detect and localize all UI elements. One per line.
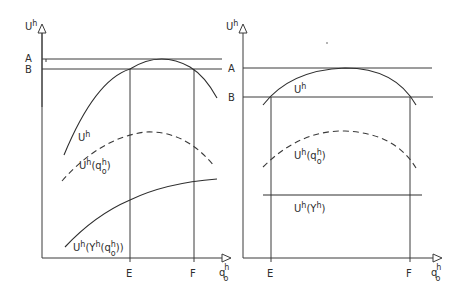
right-level-b-label: B [228, 92, 235, 103]
left-level-b-label: B [25, 64, 32, 75]
left-x-axis-label: qho [219, 263, 229, 283]
right-uh-qoh-curve [263, 131, 416, 168]
left-tick-e: E [126, 268, 132, 279]
right-uh-yh-label: Uh(Yh) [294, 201, 326, 214]
right-uh-qoh-label: Uh(qho) [294, 148, 326, 166]
right-level-a-label: A [228, 63, 235, 74]
left-level-a-label: A [25, 53, 32, 64]
left-uh-label: Uh [78, 130, 90, 143]
right-y-arrow-icon [239, 24, 247, 33]
diagram-canvas: Uh A B E F qho Uh Uh(qho) Uh(Yh(qho)) Uh… [0, 0, 470, 299]
right-tick-e: E [267, 268, 273, 279]
left-panel: Uh A B E F qho Uh Uh(qho) Uh(Yh(qho)) [25, 19, 231, 283]
left-tick-f: F [190, 268, 196, 279]
left-uh-qoh-label: Uh(qho) [79, 158, 111, 176]
right-x-axis-label: qho [431, 263, 441, 283]
speck-dot [326, 42, 328, 44]
right-tick-f: F [406, 268, 412, 279]
right-y-axis-label: Uh [226, 19, 238, 32]
right-x-arrow-icon [433, 254, 442, 262]
right-uh-label: Uh [294, 82, 306, 95]
left-y-arrow-icon [38, 24, 46, 33]
left-uh-yh-qoh-label: Uh(Yh(qho)) [73, 240, 124, 258]
left-x-arrow-icon [222, 254, 231, 262]
right-panel: Uh A B E F qho Uh Uh(qho) Uh(Yh) [226, 19, 442, 283]
right-uh-curve [263, 68, 416, 105]
left-y-axis-label: Uh [25, 19, 37, 32]
